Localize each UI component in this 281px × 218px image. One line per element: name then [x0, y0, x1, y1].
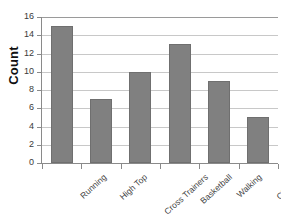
x-tick-label: Running — [78, 172, 108, 201]
gridline — [42, 72, 278, 73]
y-tick-label: 8 — [10, 85, 34, 94]
y-tick-label: 6 — [10, 103, 34, 112]
x-tick-label: High Top — [118, 172, 150, 202]
y-tick-label: 2 — [10, 140, 34, 149]
gridline — [42, 17, 278, 18]
x-tick-mark — [278, 164, 279, 169]
y-tick-label: 14 — [10, 30, 34, 39]
gridline — [42, 35, 278, 36]
bar — [129, 72, 151, 163]
x-tick-label: Walking — [235, 172, 264, 199]
bar — [169, 44, 191, 163]
bar — [208, 81, 230, 163]
x-tick-mark — [239, 164, 240, 169]
y-tick-label: 10 — [10, 67, 34, 76]
x-tick-mark — [42, 164, 43, 169]
bar-chart: Count 1614121086420 RunningHigh TopCross… — [0, 0, 281, 218]
y-tick-label: 0 — [10, 158, 34, 167]
y-tick-label: 12 — [10, 49, 34, 58]
x-tick-mark — [81, 164, 82, 169]
gridline — [42, 127, 278, 128]
y-tick-label: 16 — [10, 12, 34, 21]
bar — [90, 99, 112, 163]
gridline — [42, 90, 278, 91]
x-tick-mark — [121, 164, 122, 169]
gridline — [42, 54, 278, 55]
y-tick-label: 4 — [10, 122, 34, 131]
gridline — [42, 108, 278, 109]
bar — [247, 117, 269, 163]
plot-area — [42, 17, 278, 163]
x-tick-mark — [160, 164, 161, 169]
x-tick-label: Climbing — [275, 172, 281, 202]
x-tick-mark — [199, 164, 200, 169]
gridline — [42, 145, 278, 146]
bar — [51, 26, 73, 163]
